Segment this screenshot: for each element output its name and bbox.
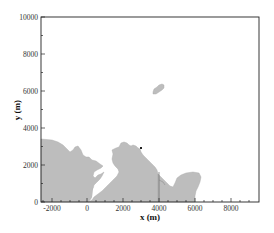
y-axis-label: y (m) (12, 100, 22, 120)
y-tick-labels: 0 2000 4000 6000 8000 10000 (19, 13, 38, 207)
x-tick-label: 2000 (116, 204, 131, 213)
y-tick-label: 8000 (23, 50, 38, 59)
y-tick-label: 6000 (23, 87, 38, 96)
x-axis-label: x (m) (140, 212, 160, 222)
central-landmass (88, 142, 158, 202)
y-tick-label: 0 (34, 198, 38, 207)
marker-dot (140, 147, 142, 149)
land-regions (41, 84, 201, 202)
y-tick-label: 10000 (19, 13, 38, 22)
y-tick-label: 2000 (23, 161, 38, 170)
offshore-island (153, 84, 164, 94)
eastern-headland (158, 172, 201, 202)
x-tick-label: 8000 (224, 204, 239, 213)
x-tick-label: 6000 (188, 204, 203, 213)
x-tick-label: 0 (85, 204, 89, 213)
chart-figure: 0 2000 4000 6000 8000 10000 -2000 0 2000… (0, 0, 274, 233)
y-tick-label: 4000 (23, 124, 38, 133)
x-tick-label: -2000 (43, 204, 61, 213)
